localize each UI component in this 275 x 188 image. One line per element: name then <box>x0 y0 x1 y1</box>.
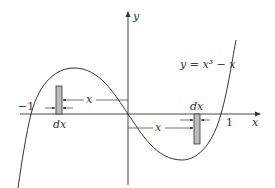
y-axis-label: y <box>132 10 140 23</box>
left-dx-label: dx <box>53 118 67 131</box>
x-axis-label: x <box>252 116 259 129</box>
right-x-label: x <box>155 121 162 134</box>
left-x-label: x <box>86 93 93 106</box>
right-dx-label: dx <box>190 100 204 113</box>
right-strip <box>194 114 200 144</box>
equation-label: y = x³ − x <box>179 58 236 71</box>
cubic-diagram: x dx x dx −1 1 x y y = x³ − x <box>0 0 275 188</box>
left-strip <box>56 86 62 114</box>
tick-one: 1 <box>226 116 233 129</box>
tick-neg-one: −1 <box>18 100 34 113</box>
